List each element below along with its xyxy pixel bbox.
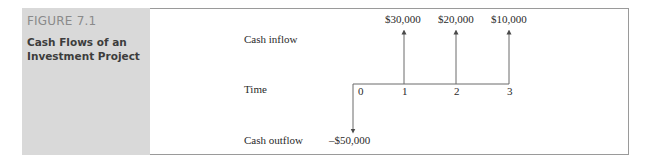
period-label-0: 0 <box>358 85 364 97</box>
period-label-2: 2 <box>454 85 460 97</box>
inflow-value-3: $10,000 <box>491 13 527 25</box>
outflow-value-0: –$50,000 <box>329 134 370 146</box>
inflow-value-2: $20,000 <box>438 13 474 25</box>
time-label: Time <box>244 83 267 95</box>
period-label-1: 1 <box>402 85 408 97</box>
cash-inflow-label: Cash inflow <box>244 33 297 45</box>
cash-flow-timeline <box>0 0 649 162</box>
period-label-3: 3 <box>507 85 513 97</box>
inflow-value-1: $30,000 <box>385 13 421 25</box>
cash-outflow-label: Cash outflow <box>244 134 303 146</box>
